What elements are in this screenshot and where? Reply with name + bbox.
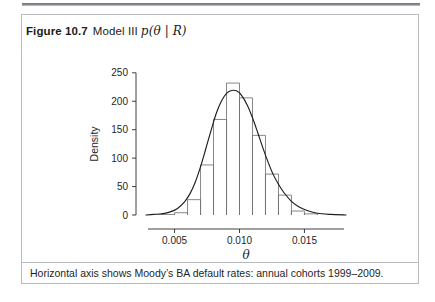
histogram-bar (214, 119, 227, 215)
x-axis-title: θ (242, 248, 250, 260)
histogram-bar (240, 98, 253, 215)
figure-title-math: p(θ | R) (138, 24, 187, 38)
plot-svg: 050100150200250Density0.0050.0100.015θ (21, 38, 419, 260)
caption-divider-rule (22, 262, 418, 263)
y-axis-tick-label: 100 (111, 153, 128, 164)
histogram-bar (252, 135, 265, 215)
histogram-bar (304, 214, 317, 215)
x-axis-tick-label: 0.010 (227, 235, 252, 246)
histogram-bar (188, 200, 201, 215)
density-curve (146, 90, 346, 215)
histogram-bar (291, 211, 304, 215)
histogram-bar (162, 214, 175, 215)
figure-page: Figure 10.7Model IIIp(θ | R) 05010015020… (0, 0, 435, 302)
figure-number: Figure 10.7 (26, 25, 88, 37)
density-plot: 050100150200250Density0.0050.0100.015θ (21, 38, 419, 260)
y-axis-title: Density (88, 126, 100, 162)
figure-title: Figure 10.7Model IIIp(θ | R) (26, 24, 187, 38)
y-axis-tick-label: 50 (117, 181, 129, 192)
y-axis-tick-label: 150 (111, 124, 128, 135)
figure-title-text: Model III (88, 25, 138, 37)
figure-caption: Horizontal axis shows Moody’s BA default… (30, 267, 415, 279)
histogram-bar (227, 83, 240, 215)
y-axis-tick-label: 250 (111, 67, 128, 78)
x-axis-tick-label: 0.005 (162, 235, 187, 246)
y-axis-tick-label: 0 (122, 210, 128, 221)
histogram-bar (175, 213, 188, 215)
top-divider-rule (22, 3, 420, 6)
histogram-bar (278, 195, 291, 215)
histogram-bar (201, 165, 214, 215)
y-axis-tick-label: 200 (111, 96, 128, 107)
x-axis-tick-label: 0.015 (292, 235, 317, 246)
